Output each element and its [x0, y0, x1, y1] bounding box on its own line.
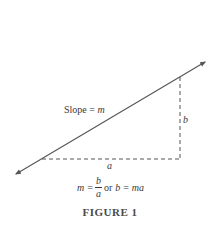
formula-fraction: b a: [95, 176, 102, 199]
figure-caption: FIGURE 1: [0, 206, 220, 218]
slope-label: Slope = m: [64, 105, 105, 115]
rise-label: b: [183, 115, 188, 125]
run-label: a: [107, 161, 112, 171]
formula-lhs: m: [77, 182, 84, 193]
formula-equals-2: =: [123, 182, 129, 193]
formula-equals-1: =: [87, 182, 93, 193]
formula-lhs-2: b: [115, 182, 120, 193]
slope-figure: Slope = m b a m = b a or b = ma FIGURE 1: [0, 0, 220, 225]
slope-variable: m: [97, 104, 104, 115]
formula-rhs-2: ma: [132, 182, 144, 193]
fraction-numerator: b: [95, 176, 102, 188]
slope-formula: m = b a or b = ma: [77, 176, 144, 199]
formula-connector: or: [104, 182, 112, 193]
slope-label-text: Slope =: [64, 104, 97, 115]
fraction-denominator: a: [96, 188, 101, 199]
sloped-line: [16, 62, 205, 174]
